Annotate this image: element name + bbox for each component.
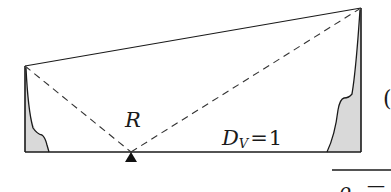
right-paren-fragment: ( bbox=[383, 86, 391, 111]
top-influence-line bbox=[25, 8, 361, 66]
diagram-canvas: R DV=1 ( ρ — bbox=[0, 0, 391, 192]
dv-label: DV=1 bbox=[221, 126, 282, 151]
right-dashed-line bbox=[131, 8, 361, 152]
bottom-dash-fragment: — bbox=[367, 175, 385, 192]
support-triangle-icon bbox=[125, 152, 137, 162]
reaction-label: R bbox=[124, 108, 141, 132]
bottom-rho-fragment: ρ bbox=[338, 179, 351, 192]
right-shaded-region bbox=[328, 8, 361, 152]
